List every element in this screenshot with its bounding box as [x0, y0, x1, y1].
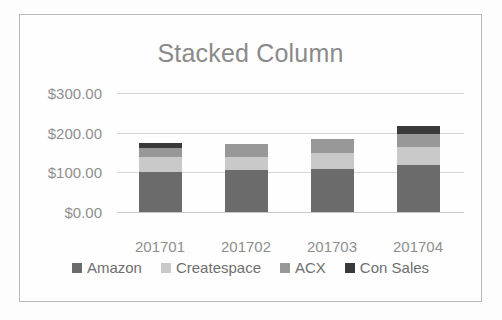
bar-segment[interactable] — [311, 139, 354, 153]
stacked-bar[interactable] — [397, 126, 440, 212]
stacked-bar[interactable] — [311, 139, 354, 212]
bar-segment[interactable] — [225, 170, 268, 212]
y-axis-tick-label: $0.00 — [24, 204, 102, 221]
legend-label: Amazon — [87, 259, 142, 276]
stacked-bar[interactable] — [139, 143, 182, 212]
legend-label: Createspace — [176, 259, 261, 276]
y-axis-tick-label: $100.00 — [24, 164, 102, 181]
x-axis-tick-label: 201701 — [117, 238, 203, 255]
bar-segment[interactable] — [139, 172, 182, 212]
legend-swatch-icon — [161, 263, 171, 273]
x-axis-tick-label: 201702 — [203, 238, 289, 255]
bar-segment[interactable] — [311, 169, 354, 212]
gridline — [117, 93, 464, 94]
bar-segment[interactable] — [397, 134, 440, 147]
bar-segment[interactable] — [311, 153, 354, 169]
bar-segment[interactable] — [397, 126, 440, 134]
legend-item[interactable]: Createspace — [161, 259, 261, 276]
bar-segment[interactable] — [397, 147, 440, 165]
legend-swatch-icon — [72, 263, 82, 273]
bar-segment[interactable] — [139, 148, 182, 157]
bar-segment[interactable] — [225, 157, 268, 170]
legend-label: ACX — [295, 259, 326, 276]
legend-item[interactable]: ACX — [280, 259, 326, 276]
legend-swatch-icon — [280, 263, 290, 273]
axis-baseline — [117, 212, 464, 213]
legend-item[interactable]: Amazon — [72, 259, 142, 276]
stacked-bar[interactable] — [225, 144, 268, 212]
bar-segment[interactable] — [139, 157, 182, 172]
legend-label: Con Sales — [360, 259, 429, 276]
x-axis-tick-label: 201703 — [289, 238, 375, 255]
bar-segment[interactable] — [225, 144, 268, 157]
legend-swatch-icon — [345, 263, 355, 273]
legend-item[interactable]: Con Sales — [345, 259, 429, 276]
chart-frame: Stacked Column $0.00$100.00$200.00$300.0… — [19, 14, 482, 302]
y-axis-tick-label: $300.00 — [24, 85, 102, 102]
y-axis-tick-label: $200.00 — [24, 124, 102, 141]
bar-segment[interactable] — [397, 165, 440, 212]
x-axis-tick-label: 201704 — [375, 238, 461, 255]
chart-screenshot: Stacked Column $0.00$100.00$200.00$300.0… — [0, 0, 502, 320]
chart-legend: AmazonCreatespaceACXCon Sales — [20, 259, 481, 276]
